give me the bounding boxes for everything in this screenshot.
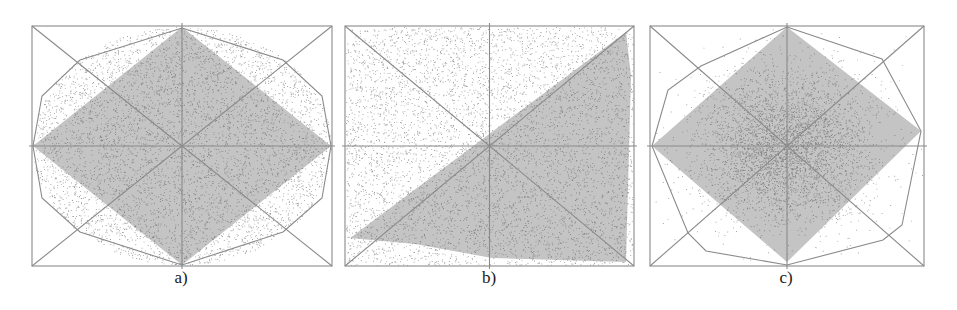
panel-b	[342, 23, 637, 269]
panel-label-c: c)	[779, 268, 792, 288]
panel-label-a: a)	[174, 268, 187, 288]
panel-a	[29, 23, 335, 269]
panel-c	[647, 23, 927, 269]
panel-label-b: b)	[482, 268, 496, 288]
scatter-panels	[0, 0, 957, 310]
figure: a) b) c)	[0, 0, 957, 310]
